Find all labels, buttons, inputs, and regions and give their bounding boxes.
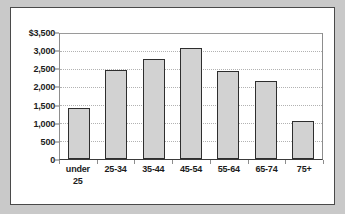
bar-slot bbox=[210, 33, 247, 159]
bar[interactable] bbox=[143, 59, 165, 159]
y-axis-tick-label: 3,000 bbox=[33, 46, 55, 56]
x-axis-tick-label: 55-64 bbox=[210, 163, 248, 175]
y-axis-tick-label: 500 bbox=[41, 137, 55, 147]
x-axis-tick-label: 25-34 bbox=[97, 163, 135, 175]
chart-inner: 05001,0001,5002,0002,5003,000$3,500 unde… bbox=[11, 8, 334, 204]
y-axis-tick-label: $3,500 bbox=[29, 28, 55, 38]
x-axis-category: 75+ bbox=[285, 163, 323, 187]
bar-slot bbox=[247, 33, 284, 159]
x-axis-category: 55-64 bbox=[210, 163, 248, 187]
bar[interactable] bbox=[292, 121, 314, 159]
x-axis-tick-label: 25 bbox=[59, 175, 97, 187]
bar[interactable] bbox=[180, 48, 202, 159]
bar-slot bbox=[97, 33, 134, 159]
bar-slot bbox=[60, 33, 97, 159]
bar-slot bbox=[172, 33, 209, 159]
bar-series bbox=[60, 33, 322, 159]
x-axis-category: 65-74 bbox=[248, 163, 286, 187]
bar[interactable] bbox=[68, 108, 90, 159]
bar-slot bbox=[285, 33, 322, 159]
x-axis-category: under25 bbox=[59, 163, 97, 187]
bar[interactable] bbox=[105, 70, 127, 159]
x-axis-tick-label: 45-54 bbox=[172, 163, 210, 175]
y-axis-tick-label: 1,000 bbox=[33, 119, 55, 129]
x-axis-tick-label: 35-44 bbox=[134, 163, 172, 175]
x-axis-category: 25-34 bbox=[97, 163, 135, 187]
x-axis-tick-label: 75+ bbox=[285, 163, 323, 175]
x-axis-tick-label: 65-74 bbox=[248, 163, 286, 175]
bar[interactable] bbox=[217, 71, 239, 159]
chart-panel: 05001,0001,5002,0002,5003,000$3,500 unde… bbox=[10, 7, 335, 205]
y-axis-tick-label: 1,500 bbox=[33, 101, 55, 111]
bar[interactable] bbox=[255, 81, 277, 159]
x-axis: under2525-3435-4445-5455-6465-7475+ bbox=[59, 163, 323, 187]
x-axis-category: 35-44 bbox=[134, 163, 172, 187]
plot-area bbox=[59, 33, 323, 160]
y-axis: 05001,0001,5002,0002,5003,000$3,500 bbox=[11, 33, 55, 160]
bar-slot bbox=[135, 33, 172, 159]
x-axis-category: 45-54 bbox=[172, 163, 210, 187]
y-axis-tick-label: 2,000 bbox=[33, 82, 55, 92]
y-axis-tick-label: 2,500 bbox=[33, 64, 55, 74]
x-axis-tick-mark bbox=[323, 160, 324, 164]
x-axis-tick-label: under bbox=[59, 163, 97, 175]
